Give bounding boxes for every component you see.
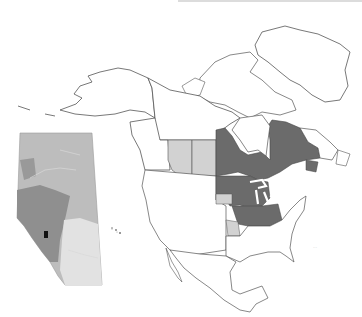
saskatchewan xyxy=(192,140,216,176)
new-brunswick xyxy=(306,160,318,172)
alberta xyxy=(168,140,192,176)
central-midwest xyxy=(232,204,282,226)
mexico xyxy=(170,250,268,312)
aleutians xyxy=(18,106,55,116)
usa-west xyxy=(142,170,226,256)
newfoundland xyxy=(336,150,350,166)
alberta-inset xyxy=(17,133,102,285)
alaska xyxy=(60,68,155,118)
north-america-map xyxy=(0,0,362,317)
missouri xyxy=(226,220,240,236)
scale-mark: ··· xyxy=(313,245,317,250)
hawaii xyxy=(111,227,121,234)
site-location-marker xyxy=(44,231,48,238)
south-dakota xyxy=(216,194,232,204)
alberta-plains-zone xyxy=(60,218,102,285)
